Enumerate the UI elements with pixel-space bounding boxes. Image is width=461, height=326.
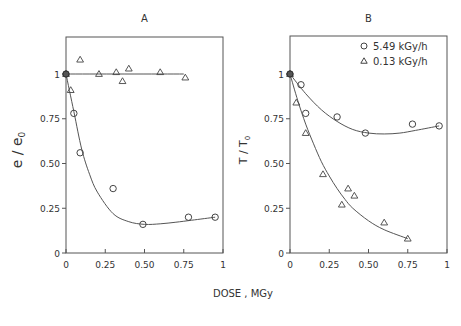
data-point-triangle	[96, 71, 103, 77]
legend-label: 0.13 kGy/h	[373, 56, 428, 67]
plot-frame	[66, 37, 223, 253]
data-point-triangle	[182, 74, 189, 80]
y-tick-label: 0.25	[40, 204, 60, 214]
series-triangle	[63, 56, 189, 92]
y-tick-label: 1	[54, 70, 60, 80]
data-point-circle	[334, 114, 340, 120]
x-tick-label: 0.25	[319, 260, 339, 270]
y-tick-label: 0.50	[264, 159, 284, 169]
series-circle	[63, 71, 219, 228]
x-tick-label: 1	[220, 260, 226, 270]
series-triangle	[287, 71, 412, 241]
y-tick-label: 0	[278, 249, 284, 259]
data-point-triangle	[119, 78, 126, 84]
y-tick-label: 1	[278, 70, 284, 80]
x-tick-label: 0	[287, 260, 293, 270]
x-axis-label: DOSE , MGy	[213, 288, 273, 299]
data-point-triangle	[125, 65, 132, 71]
legend-circle-icon	[361, 43, 367, 49]
x-tick-label: 1	[444, 260, 450, 270]
panel-a: A00.250.500.75100.250.500.751e / e0	[9, 13, 226, 270]
panel-title: A	[141, 13, 148, 24]
legend-triangle-icon	[361, 58, 367, 63]
figure: A00.250.500.75100.250.500.751e / e0B00.2…	[0, 0, 461, 326]
data-point-circle	[409, 121, 415, 127]
data-point-circle	[303, 110, 309, 116]
y-tick-label: 0.50	[40, 159, 60, 169]
data-point-triangle	[351, 192, 358, 198]
fit-curve	[290, 74, 408, 239]
y-axis-label: e / e0	[9, 131, 27, 168]
data-point-circle	[185, 214, 191, 220]
data-point-triangle	[381, 219, 388, 225]
origin-point	[63, 71, 69, 77]
panel-title: B	[365, 13, 372, 24]
data-point-triangle	[320, 171, 327, 177]
series-circle	[287, 71, 443, 136]
y-tick-label: 0.75	[40, 114, 60, 124]
fit-curve	[66, 74, 215, 224]
legend-label: 5.49 kGy/h	[373, 41, 428, 52]
x-tick-label: 0.50	[358, 260, 378, 270]
y-tick-label: 0.25	[264, 204, 284, 214]
legend: 5.49 kGy/h0.13 kGy/h	[361, 41, 428, 67]
y-tick-label: 0.75	[264, 114, 284, 124]
x-tick-label: 0.75	[398, 260, 418, 270]
data-point-triangle	[338, 201, 345, 207]
x-tick-label: 0.25	[95, 260, 115, 270]
data-point-triangle	[77, 56, 84, 62]
x-tick-label: 0.50	[134, 260, 154, 270]
x-tick-label: 0.75	[174, 260, 194, 270]
y-axis-label: T / T0	[237, 136, 252, 166]
fit-curve	[290, 74, 439, 134]
origin-point	[287, 71, 293, 77]
data-point-circle	[110, 185, 116, 191]
x-tick-label: 0	[63, 260, 69, 270]
y-tick-label: 0	[54, 249, 60, 259]
data-point-triangle	[345, 185, 352, 191]
